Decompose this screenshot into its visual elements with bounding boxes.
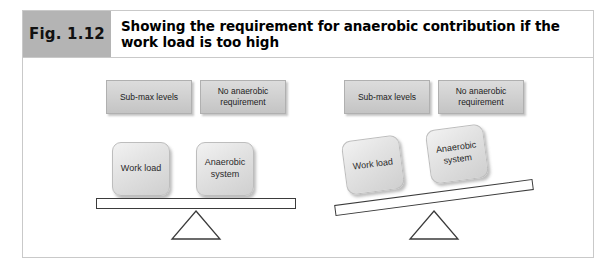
flat-label-text: No anaerobic requirement [201, 86, 285, 107]
figure-title: Showing the requirement for anaerobic co… [121, 18, 583, 51]
weight-block-label: Anaerobic system [197, 157, 253, 180]
weight-block-label: Work load [121, 163, 161, 175]
flat-label-text: Sub-max levels [355, 92, 419, 103]
weight-block-work-load: Work load [341, 134, 406, 195]
balance-beam [96, 198, 296, 209]
flat-label-sub-max-levels: Sub-max levels [344, 80, 430, 114]
figure-title-block: Showing the requirement for anaerobic co… [111, 11, 593, 57]
flat-label-sub-max-levels: Sub-max levels [106, 80, 192, 114]
figure-header: Fig. 1.12 Showing the requirement for an… [22, 10, 594, 58]
figure-number-label: Fig. 1.12 [29, 25, 105, 43]
figure-number-block: Fig. 1.12 [23, 11, 111, 57]
flat-label-no-anaerobic-requirement: No anaerobic requirement [438, 80, 524, 114]
flat-label-no-anaerobic-requirement: No anaerobic requirement [200, 80, 286, 114]
weight-block-label: Anaerobic system [428, 139, 487, 169]
weight-block-work-load: Work load [112, 142, 170, 196]
tilted-scale-diagram: Sub-max levels No anaerobic requirement … [322, 58, 586, 258]
fulcrum-triangle-icon [408, 209, 460, 241]
weight-block-anaerobic-system: Anaerobic system [196, 142, 254, 196]
diagram-area: Sub-max levels No anaerobic requirement … [22, 58, 594, 258]
flat-label-text: Sub-max levels [117, 92, 181, 103]
figure-container: Fig. 1.12 Showing the requirement for an… [0, 0, 615, 276]
weight-block-label: Work load [352, 157, 394, 174]
weight-block-anaerobic-system: Anaerobic system [425, 123, 490, 184]
balanced-scale-diagram: Sub-max levels No anaerobic requirement … [84, 58, 348, 258]
fulcrum-triangle-icon [170, 209, 222, 241]
flat-label-text: No anaerobic requirement [439, 86, 523, 107]
